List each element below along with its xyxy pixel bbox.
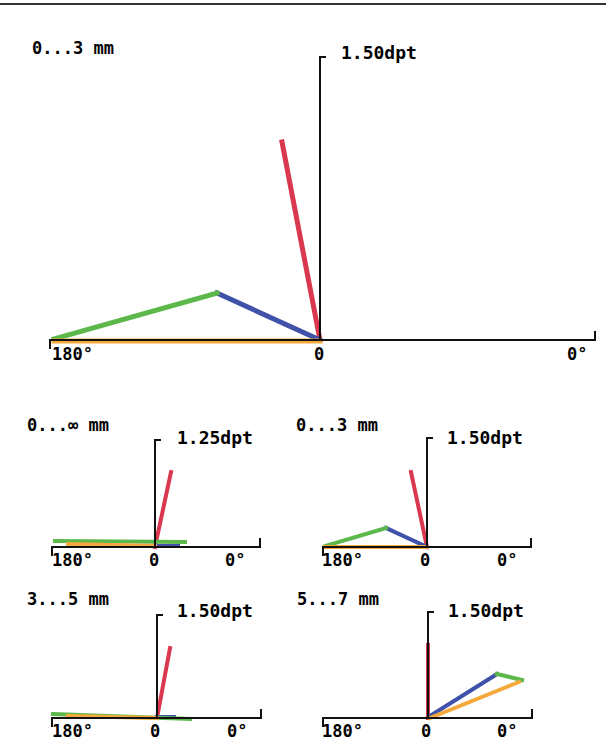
chart-1-xtick-0: 0° <box>567 344 587 364</box>
chart-2-xtick-center: 0 <box>149 550 159 570</box>
series-red-line <box>155 472 171 547</box>
chart-1-xtick-center: 0 <box>314 344 324 364</box>
chart-1-xtick-180: 180° <box>52 344 93 364</box>
chart-2-ylabel: 1.25dpt <box>177 427 253 448</box>
series-orange-line <box>68 544 155 546</box>
astigmatism-charts <box>0 0 616 756</box>
series-green-line <box>54 293 217 339</box>
chart-1-ylabel: 1.50dpt <box>341 42 417 63</box>
chart-5-title: 5...7 mm <box>297 589 379 609</box>
chart-5-xtick-180: 180° <box>322 721 363 741</box>
chart-5-xtick-0: 0° <box>497 721 517 741</box>
series-green-line <box>325 528 386 546</box>
series-blue-line <box>386 528 427 547</box>
series-green-line <box>55 541 185 542</box>
series-red-line <box>282 142 320 340</box>
chart-2-xtick-0: 0° <box>225 550 245 570</box>
chart-4-title: 3...5 mm <box>27 589 109 609</box>
chart-4-xtick-center: 0 <box>150 721 160 741</box>
chart-3-ylabel: 1.50dpt <box>447 427 523 448</box>
chart-1-title: 0...3 mm <box>32 38 114 58</box>
chart-5-ylabel: 1.50dpt <box>448 600 524 621</box>
chart-3-xtick-0: 0° <box>497 550 517 570</box>
chart-2-xtick-180: 180° <box>52 550 93 570</box>
chart-4-xtick-0: 0° <box>227 721 247 741</box>
chart-5-xtick-center: 0 <box>421 721 431 741</box>
series-blue-line <box>217 293 320 340</box>
chart-3-title: 0...3 mm <box>296 415 378 435</box>
chart-3-xtick-center: 0 <box>420 550 430 570</box>
series-green-line <box>497 674 522 680</box>
chart-2-title: 0...∞ mm <box>27 415 109 435</box>
chart-4-ylabel: 1.50dpt <box>177 600 253 621</box>
series-red-line <box>157 648 170 718</box>
chart-3-xtick-180: 180° <box>322 550 363 570</box>
series-red-line <box>411 472 427 547</box>
chart-4-xtick-180: 180° <box>52 721 93 741</box>
